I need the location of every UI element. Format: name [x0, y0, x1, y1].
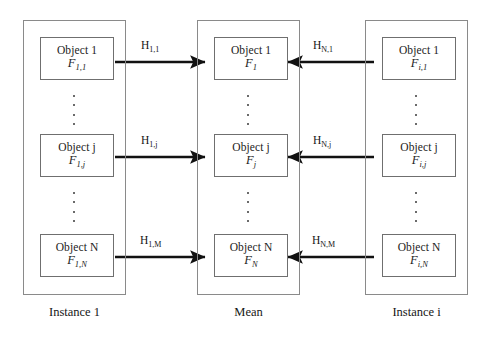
object-feature: F1 [245, 57, 257, 72]
ellipsis-dot [415, 211, 417, 213]
object-feature: F1,N [67, 254, 87, 269]
object-feature: FN [244, 254, 257, 269]
feature-subscript: 1 [253, 63, 257, 73]
feature-subscript: 1,1 [76, 63, 87, 73]
ellipsis-instance1-lower [72, 192, 76, 222]
feature-subscript: 1,j [76, 160, 85, 170]
ellipsis-dot [415, 220, 417, 222]
object-title: Object j [58, 141, 96, 153]
arrow-label-h-1-m: H1,M [140, 234, 161, 249]
object-box-mean-row3: Object N FN [214, 234, 288, 277]
object-box-mean-row2: Object j Fj [214, 134, 288, 177]
caption-mean: Mean [197, 305, 300, 320]
object-feature: F1,j [69, 154, 85, 169]
object-box-mean-row1: Object 1 F1 [214, 37, 288, 80]
arrow-label-subscript: N,j [321, 140, 331, 149]
object-title: Object N [398, 241, 441, 253]
feature-base: F [246, 153, 254, 167]
object-title: Object N [230, 241, 273, 253]
arrow-label-subscript: N,1 [321, 45, 333, 54]
object-box-instancei-row2: Object j Fi,j [382, 134, 456, 177]
feature-subscript: i,j [419, 160, 426, 170]
feature-base: F [245, 56, 253, 70]
ellipsis-dot [247, 220, 249, 222]
arrow-label-subscript: N,M [320, 240, 335, 249]
object-title: Object 1 [399, 44, 439, 56]
ellipsis-dot [415, 192, 417, 194]
object-title: Object j [400, 141, 438, 153]
object-title: Object j [232, 141, 270, 153]
object-box-instance1-row1: Object 1 F1,1 [40, 37, 114, 80]
ellipsis-dot [247, 211, 249, 213]
feature-subscript: j [254, 160, 256, 170]
arrow-label-h-n-m: HN,M [312, 234, 335, 249]
ellipsis-dot [415, 201, 417, 203]
ellipsis-dot [415, 123, 417, 125]
ellipsis-instancei-upper [414, 95, 418, 125]
ellipsis-mean-lower [246, 192, 250, 222]
ellipsis-dot [73, 104, 75, 106]
object-feature: Fi,1 [411, 57, 427, 72]
ellipsis-instance1-upper [72, 95, 76, 125]
ellipsis-dot [73, 220, 75, 222]
ellipsis-dot [73, 123, 75, 125]
arrow-label-h-1-j: H1,j [141, 134, 158, 149]
object-feature: Fi,j [412, 154, 427, 169]
ellipsis-dot [73, 192, 75, 194]
ellipsis-dot [415, 95, 417, 97]
ellipsis-dot [73, 95, 75, 97]
feature-base: F [67, 253, 75, 267]
ellipsis-dot [247, 95, 249, 97]
arrow-label-subscript: 1,1 [149, 45, 159, 54]
feature-subscript: i,1 [418, 63, 427, 73]
ellipsis-dot [73, 201, 75, 203]
ellipsis-dot [247, 192, 249, 194]
object-box-instancei-row3: Object N Fi,N [382, 234, 456, 277]
arrow-label-h-1-1: H1,1 [141, 39, 159, 54]
object-title: Object 1 [231, 44, 271, 56]
feature-base: F [410, 253, 418, 267]
arrow-label-subscript: 1,M [148, 240, 161, 249]
object-box-instance1-row2: Object j F1,j [40, 134, 114, 177]
object-box-instance1-row3: Object N F1,N [40, 234, 114, 277]
ellipsis-instancei-lower [414, 192, 418, 222]
feature-subscript: i,N [418, 260, 428, 270]
caption-instance-1: Instance 1 [23, 305, 126, 320]
ellipsis-dot [73, 211, 75, 213]
ellipsis-dot [247, 114, 249, 116]
object-feature: Fj [246, 154, 256, 169]
object-box-instancei-row1: Object 1 Fi,1 [382, 37, 456, 80]
feature-subscript: 1,N [75, 260, 87, 270]
feature-subscript: N [252, 260, 258, 270]
ellipsis-dot [247, 123, 249, 125]
arrow-label-h-n-j: HN,j [313, 134, 331, 149]
ellipsis-dot [415, 114, 417, 116]
arrow-label-subscript: 1,j [149, 140, 157, 149]
ellipsis-dot [247, 104, 249, 106]
feature-base: F [68, 56, 76, 70]
ellipsis-dot [415, 104, 417, 106]
object-title: Object 1 [57, 44, 97, 56]
ellipsis-dot [73, 114, 75, 116]
caption-instance-i: Instance i [365, 305, 468, 320]
ellipsis-dot [247, 201, 249, 203]
object-title: Object N [56, 241, 99, 253]
object-feature: Fi,N [410, 254, 428, 269]
arrow-label-h-n-1: HN,1 [313, 39, 333, 54]
diagram-canvas: Object 1 F1,1 Object j F1,j Object N F1,… [0, 0, 490, 346]
feature-base: F [244, 253, 252, 267]
object-feature: F1,1 [68, 57, 86, 72]
ellipsis-mean-upper [246, 95, 250, 125]
